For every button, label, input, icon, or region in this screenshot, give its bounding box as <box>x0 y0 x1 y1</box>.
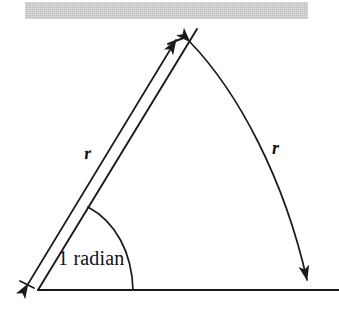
circular-arc <box>190 42 307 280</box>
radius-bottom-tick <box>20 281 34 288</box>
radian-diagram <box>0 0 339 312</box>
radius-top-tick <box>168 37 186 44</box>
figure-canvas: 1 radian r r <box>0 0 339 312</box>
angle-label: 1 radian <box>58 248 125 268</box>
radius-label-left: r <box>83 144 91 162</box>
arc-length-label: r <box>272 139 279 157</box>
